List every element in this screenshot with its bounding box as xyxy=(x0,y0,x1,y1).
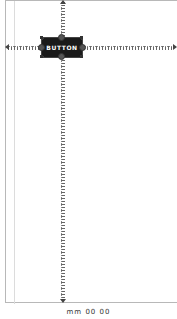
right-arrow-icon xyxy=(173,44,177,50)
resize-handle-top-left[interactable] xyxy=(40,36,43,39)
left-arrow-icon xyxy=(5,44,9,50)
anchor-handle-right[interactable] xyxy=(79,44,86,51)
footer-label: mm 00 00 xyxy=(0,308,177,316)
anchor-handle-bottom[interactable] xyxy=(58,53,65,60)
top-arrow-icon xyxy=(60,0,66,4)
resize-handle-bottom-right[interactable] xyxy=(80,55,83,58)
selected-button-widget[interactable]: BUTTON xyxy=(42,38,82,58)
bottom-constraint-spring[interactable] xyxy=(61,60,65,300)
left-constraint-spring[interactable] xyxy=(8,46,40,50)
anchor-handle-left[interactable] xyxy=(38,44,45,51)
resize-handle-top-right[interactable] xyxy=(80,36,83,39)
right-constraint-spring[interactable] xyxy=(84,46,174,50)
resize-handle-bottom-left[interactable] xyxy=(40,55,43,58)
anchor-handle-top[interactable] xyxy=(58,34,65,41)
bottom-arrow-icon xyxy=(60,299,66,303)
top-constraint-spring[interactable] xyxy=(61,2,65,36)
